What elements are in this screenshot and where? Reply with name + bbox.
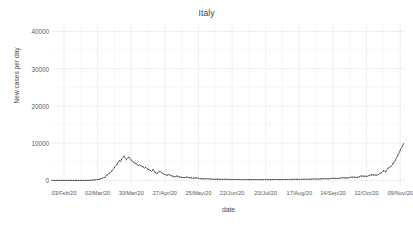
data-point	[128, 157, 129, 158]
data-point	[385, 171, 386, 172]
y-axis-label: New cases per day	[13, 21, 20, 131]
data-point	[109, 172, 110, 173]
data-point	[251, 179, 252, 180]
data-point	[248, 179, 249, 180]
data-point	[289, 179, 290, 180]
data-point	[388, 168, 389, 169]
y-tick-label: 20000	[31, 102, 49, 109]
data-point	[123, 155, 124, 156]
data-point-markers	[51, 145, 403, 181]
data-point	[359, 176, 360, 177]
data-point	[292, 179, 293, 180]
plot-wrapper: New cases per day 010000200003000040000 …	[0, 0, 413, 227]
data-point	[335, 178, 336, 179]
data-point	[97, 179, 98, 180]
data-point	[131, 160, 132, 161]
data-point	[68, 180, 69, 181]
data-point	[272, 179, 273, 180]
data-point	[119, 160, 120, 161]
data-point	[328, 178, 329, 179]
data-point	[311, 179, 312, 180]
data-point	[268, 179, 269, 180]
data-point	[208, 178, 209, 179]
data-point	[102, 178, 103, 179]
data-point	[200, 178, 201, 179]
data-point	[66, 180, 67, 181]
chart-figure: Italy New cases per day 0100002000030000…	[0, 0, 413, 227]
data-point	[364, 176, 365, 177]
data-point	[179, 176, 180, 177]
data-point	[376, 175, 377, 176]
data-point	[316, 178, 317, 179]
data-point	[368, 175, 369, 176]
data-point	[323, 178, 324, 179]
data-point	[80, 180, 81, 181]
data-point	[390, 166, 391, 167]
data-point	[229, 179, 230, 180]
data-point	[340, 178, 341, 179]
data-point	[136, 163, 137, 164]
data-point	[344, 177, 345, 178]
data-point	[71, 180, 72, 181]
data-point	[169, 174, 170, 175]
data-point	[107, 174, 108, 175]
data-point	[167, 175, 168, 176]
data-point	[294, 179, 295, 180]
data-point	[400, 150, 401, 151]
data-point	[198, 178, 199, 179]
data-point	[332, 178, 333, 179]
data-point	[239, 179, 240, 180]
data-point	[371, 174, 372, 175]
data-point	[181, 177, 182, 178]
data-point	[121, 159, 122, 160]
data-point	[244, 179, 245, 180]
x-tick-label: 12/Oct/20	[354, 190, 378, 196]
data-point	[114, 167, 115, 168]
data-point	[361, 176, 362, 177]
data-point	[256, 179, 257, 180]
data-point	[270, 179, 271, 180]
x-tick-label: 17/Aug/20	[287, 190, 313, 196]
chart-canvas	[52, 24, 405, 186]
data-point	[73, 180, 74, 181]
data-point	[172, 175, 173, 176]
data-point	[92, 179, 93, 180]
data-point	[260, 179, 261, 180]
x-tick-label: 09/Nov/20	[387, 190, 413, 196]
data-point	[337, 178, 338, 179]
x-tick-label: 30/Mar/20	[119, 190, 144, 196]
data-point	[320, 178, 321, 179]
data-point	[160, 171, 161, 172]
data-point	[356, 177, 357, 178]
data-point	[383, 170, 384, 171]
data-point	[111, 170, 112, 171]
data-point	[253, 179, 254, 180]
data-point	[95, 179, 96, 180]
data-point	[90, 180, 91, 181]
x-tick-label: 27/Apr/20	[153, 190, 177, 196]
data-point	[162, 173, 163, 174]
data-point	[56, 180, 57, 181]
data-point	[373, 174, 374, 175]
data-point	[342, 177, 343, 178]
data-point	[282, 179, 283, 180]
data-point	[116, 164, 117, 165]
data-point	[234, 179, 235, 180]
data-point	[148, 169, 149, 170]
data-point	[176, 175, 177, 176]
y-tick-label: 0	[45, 177, 49, 184]
data-point	[61, 180, 62, 181]
data-point	[78, 180, 79, 181]
data-point	[304, 179, 305, 180]
data-point	[224, 179, 225, 180]
x-tick-label: 25/May/20	[185, 190, 211, 196]
data-point	[85, 180, 86, 181]
data-point	[395, 159, 396, 160]
data-point	[215, 179, 216, 180]
data-point	[275, 179, 276, 180]
data-point	[184, 177, 185, 178]
data-point	[308, 179, 309, 180]
data-point	[157, 172, 158, 173]
data-point	[227, 179, 228, 180]
data-point	[284, 179, 285, 180]
